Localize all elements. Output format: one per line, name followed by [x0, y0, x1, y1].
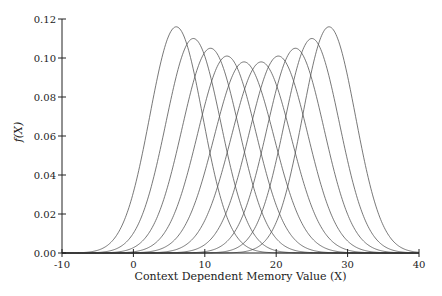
y-tick-label: 0.08 [34, 92, 56, 103]
curves-group [62, 27, 419, 253]
density-curve-curve-6 [62, 62, 419, 253]
x-tick-label: 40 [413, 259, 426, 270]
x-tick-label: 0 [130, 259, 136, 270]
y-tick-label: 0.04 [34, 170, 56, 181]
x-axis-label: Context Dependent Memory Value (X) [134, 270, 346, 283]
y-tick-label: 0.06 [34, 131, 56, 142]
density-curve-curve-10 [62, 27, 419, 253]
y-tick-label: 0.02 [34, 209, 56, 220]
x-tick-label: 10 [198, 259, 211, 270]
density-chart: 0.000.020.040.060.080.100.12 -1001020304… [0, 0, 442, 296]
x-tick-label: 30 [341, 259, 354, 270]
y-tick-label: 0.10 [34, 53, 56, 64]
axes-group: 0.000.020.040.060.080.100.12 -1001020304… [34, 14, 426, 271]
density-curve-curve-4 [62, 56, 419, 253]
density-curve-curve-7 [62, 56, 419, 253]
y-axis-label: f(X) [12, 122, 25, 144]
x-tick-label: 20 [270, 259, 283, 270]
density-curve-curve-5 [62, 62, 419, 253]
density-curve-curve-1 [62, 27, 419, 253]
x-tick-label: -10 [54, 259, 70, 270]
y-tick-label: 0.00 [34, 248, 56, 259]
density-curve-curve-3 [62, 48, 419, 253]
density-curve-curve-8 [62, 48, 419, 253]
y-tick-label: 0.12 [34, 14, 56, 25]
y-axis-ticks: 0.000.020.040.060.080.100.12 [34, 14, 66, 259]
